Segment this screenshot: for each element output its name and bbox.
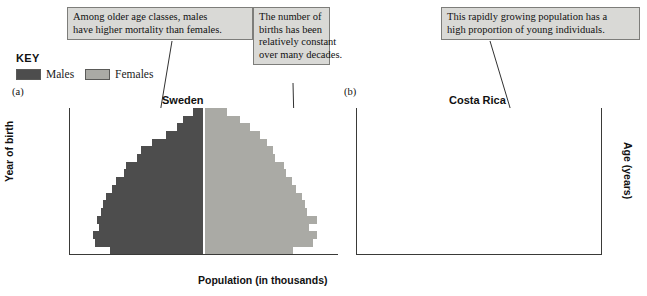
callout-male-mortality: Among older age classes, males have high… (67, 7, 253, 40)
y-axis-labels-costarica (606, 108, 636, 255)
panel-tag-b: (b) (344, 86, 356, 97)
plot-area-costarica (356, 108, 602, 255)
legend-label-males: Males (46, 68, 74, 80)
callout-line: Among older age classes, males (73, 11, 247, 24)
bars-costarica (357, 108, 601, 254)
plot-area-sweden (69, 108, 338, 255)
legend-label-females: Females (115, 68, 153, 80)
callout-line: This rapidly growing population has a (447, 11, 634, 24)
legend-entries: Males Females (16, 68, 159, 80)
chart-title-sweden: Sweden (162, 94, 204, 106)
chart-title-costarica: Costa Rica (449, 94, 506, 106)
legend-title: KEY (16, 52, 159, 64)
x-axis-title: Population (in thousands) (198, 274, 328, 286)
zero-axis-costarica (357, 108, 359, 254)
callout-line: births has been (259, 24, 324, 37)
legend-swatch-males (16, 69, 41, 80)
callout-line: relatively constant (259, 36, 324, 49)
zero-axis-sweden (203, 108, 205, 254)
panel-tag-a: (a) (12, 86, 24, 97)
y-axis-title-sweden: Year of birth (3, 121, 15, 182)
bar-male (110, 246, 204, 254)
callout-line: have higher mortality than females. (73, 24, 247, 37)
bar-female (204, 246, 293, 254)
legend-key: KEY Males Females (16, 52, 159, 80)
figure-root: Among older age classes, males have high… (0, 0, 647, 296)
y-axis-labels-sweden (18, 108, 65, 255)
callout-line: high proportion of young individuals. (447, 24, 634, 37)
callout-line: over many decades. (259, 49, 324, 62)
legend-swatch-females (85, 69, 110, 80)
callout-young-population: This rapidly growing population has a hi… (441, 7, 640, 40)
callout-line: The number of (259, 11, 324, 24)
callout-constant-births: The number of births has been relatively… (253, 7, 330, 65)
